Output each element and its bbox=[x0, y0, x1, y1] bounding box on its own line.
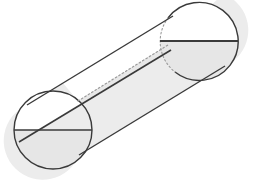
figure-container: Oblique cylinder with longitudinal cut p… bbox=[0, 0, 253, 180]
cylinder-diagram: Oblique cylinder with longitudinal cut p… bbox=[0, 0, 253, 180]
